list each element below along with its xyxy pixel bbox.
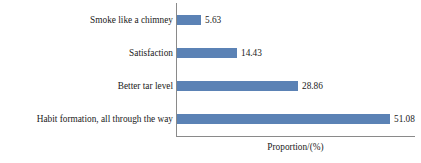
bar-segment bbox=[177, 81, 298, 91]
value-label: 28.86 bbox=[302, 79, 323, 93]
category-label: Habit formation, all through the way bbox=[0, 112, 173, 126]
bar-segment bbox=[177, 114, 390, 124]
bar-row: Satisfaction 14.43 bbox=[0, 46, 421, 60]
bar-chart: Smoke like a chimney 5.63 Satisfaction 1… bbox=[0, 0, 421, 163]
value-label: 14.43 bbox=[241, 46, 262, 60]
category-label: Better tar level bbox=[0, 79, 173, 93]
category-label: Smoke like a chimney bbox=[0, 13, 173, 27]
bar-row: Habit formation, all through the way 51.… bbox=[0, 112, 421, 126]
category-label: Satisfaction bbox=[0, 46, 173, 60]
x-axis-line bbox=[176, 136, 415, 137]
x-axis-title: Proportion/(%) bbox=[176, 140, 415, 154]
value-label: 51.08 bbox=[394, 112, 415, 126]
bar-row: Smoke like a chimney 5.63 bbox=[0, 13, 421, 27]
bar-segment bbox=[177, 48, 237, 58]
bar-segment bbox=[177, 15, 201, 25]
bar-row: Better tar level 28.86 bbox=[0, 79, 421, 93]
value-label: 5.63 bbox=[205, 13, 221, 27]
